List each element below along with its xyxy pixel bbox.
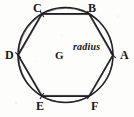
vertex-label-f: F bbox=[91, 100, 98, 112]
vertex-label-a: A bbox=[120, 49, 129, 61]
vertex-label-d: D bbox=[5, 49, 14, 61]
inscribed-hexagon bbox=[18, 14, 113, 96]
vertex-label-c: C bbox=[33, 2, 42, 14]
center-label-g: G bbox=[55, 50, 64, 61]
radius-annotation-label: radius bbox=[73, 42, 100, 52]
vertex-label-b: B bbox=[88, 2, 96, 14]
geometry-figure: A B C D E F G radius bbox=[0, 0, 134, 117]
vertex-label-e: E bbox=[36, 100, 44, 112]
figure-canvas bbox=[0, 0, 134, 117]
inscribed-hexagon-overstroke bbox=[19, 15, 113, 96]
